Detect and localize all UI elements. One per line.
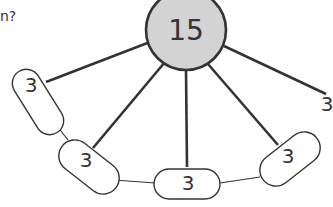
link-2-3 xyxy=(114,180,155,183)
oval-3-value: 3 xyxy=(182,171,195,195)
number-bond-diagram: 15 3 3 3 3 3 xyxy=(0,0,333,207)
oval-1-value: 3 xyxy=(25,73,38,97)
oval-4-value: 3 xyxy=(282,144,295,168)
spoke-4 xyxy=(208,64,278,145)
link-3-4 xyxy=(220,177,260,183)
spoke-3 xyxy=(186,70,187,167)
oval-2-value: 3 xyxy=(80,148,93,172)
spoke-5 xyxy=(224,46,326,94)
loose-value: 3 xyxy=(321,92,333,116)
center-value: 15 xyxy=(168,14,204,47)
spoke-1 xyxy=(46,42,150,82)
spoke-2 xyxy=(93,62,165,148)
